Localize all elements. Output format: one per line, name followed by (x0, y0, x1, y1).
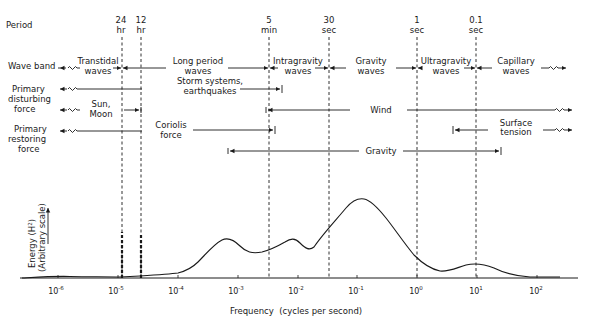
disturbing-force-label-2: disturbing (8, 94, 51, 104)
wavy-arrow-right-icon (555, 109, 564, 112)
wave-band-row-label: Wave band (8, 61, 55, 71)
ylabel-close: ) (27, 219, 37, 222)
wave-band-row (58, 67, 566, 70)
disturbing-force-label-1: Primary (12, 84, 45, 94)
period-5min-value: 5 (266, 15, 271, 25)
wavy-line-icon (68, 88, 142, 91)
band-gravity-1: Gravity (355, 56, 386, 66)
period-01sec-value: 0.1 (469, 15, 483, 25)
force-coriolis-1: Coriolis (155, 120, 187, 130)
ylabel-arbitrary-scale: (Arbitrary scale) (37, 203, 47, 272)
restoring-force-label-3: force (18, 144, 39, 154)
energy-spectrum-curve (22, 199, 560, 278)
band-ultragravity-2: waves (433, 66, 460, 76)
band-transtidal-2: waves (85, 66, 112, 76)
wavy-line-icon (68, 130, 142, 133)
band-capillary-1: Capillary (497, 56, 534, 66)
x-tick: 10-6 (48, 285, 64, 296)
restoring-force-label-1: Primary (14, 124, 47, 134)
x-tick: 10-5 (108, 285, 124, 296)
disturbing-force-labels: Storm systems, earthquakes Wind Sun, Moo… (89, 76, 391, 119)
x-tick: 100 (409, 285, 423, 296)
band-gravity-2: waves (358, 66, 385, 76)
band-intragravity-2: waves (285, 66, 312, 76)
period-30sec-value: 30 (324, 15, 335, 25)
x-tick: 102 (529, 285, 543, 296)
band-long-period-1: Long period (173, 56, 223, 66)
band-transtidal-1: Transtidal (76, 56, 118, 66)
period-1sec-value: 1 (414, 15, 419, 25)
restoring-force-label-2: restoring (8, 134, 46, 144)
period-01sec-unit: sec (469, 25, 484, 35)
wavy-arrow-right-icon (541, 67, 558, 70)
x-tick: 10-4 (168, 285, 184, 296)
ylabel-energy: Energy (H (27, 226, 37, 268)
force-storm-2: earthquakes (184, 86, 237, 96)
period-24hr-value: 24 (116, 15, 127, 25)
x-tick: 10-2 (288, 285, 304, 296)
period-30sec-unit: sec (322, 25, 337, 35)
x-axis-tick-labels: 10-6 10-5 10-4 10-3 10-2 10-1 100 101 10… (48, 285, 543, 296)
wavy-arrow-left-icon (68, 109, 80, 112)
force-sun-1: Sun, (92, 99, 111, 109)
tidal-spikes (122, 232, 141, 278)
period-row-label: Period (6, 20, 33, 30)
svg-text:Energy (H2): Energy (H2) (27, 219, 37, 268)
band-long-period-2: waves (185, 66, 212, 76)
restoring-force-arrows (60, 126, 572, 155)
wave-band-labels: Transtidal waves Long period waves Intra… (76, 56, 534, 76)
x-axis-label: Frequency (cycles per second) (230, 306, 362, 316)
force-coriolis-2: force (160, 130, 181, 140)
period-24hr-unit: hr (117, 25, 126, 35)
period-12hr-value: 12 (136, 15, 147, 25)
band-capillary-2: waves (503, 66, 530, 76)
period-headers: 24 hr 12 hr 5 min 30 sec 1 sec 0.1 sec (116, 15, 484, 35)
band-ultragravity-1: Ultragravity (421, 56, 471, 66)
period-5min-unit: min (261, 25, 277, 35)
x-tick: 10-1 (348, 285, 364, 296)
band-intragravity-1: Intragravity (273, 56, 323, 66)
force-storm-1: Storm systems, (177, 76, 243, 86)
row-labels: Period Wave band Primary disturbing forc… (6, 20, 55, 154)
force-sun-2: Moon (89, 109, 112, 119)
disturbing-force-label-3: force (14, 104, 35, 114)
x-tick: 101 (469, 285, 483, 296)
force-gravity: Gravity (365, 146, 396, 156)
y-axis-label: Energy (H2) (Arbitrary scale) (27, 203, 47, 272)
x-tick: 10-3 (228, 285, 244, 296)
disturbing-force-arrows (60, 85, 572, 113)
wavy-arrow-right-icon (555, 129, 564, 132)
force-surface-tension-2: tension (500, 127, 531, 137)
period-12hr-unit: hr (137, 25, 146, 35)
force-wind: Wind (370, 105, 391, 115)
wave-spectrum-diagram: Period Wave band Primary disturbing forc… (0, 0, 591, 324)
period-1sec-unit: sec (410, 25, 425, 35)
